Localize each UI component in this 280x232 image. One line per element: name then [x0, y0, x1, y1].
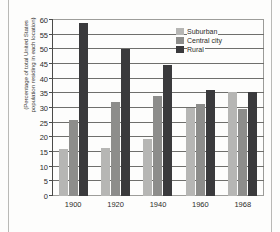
x-tick-label-1960: 1960: [192, 200, 209, 209]
y-tick-label: 15: [40, 148, 48, 157]
legend-label: Rural: [187, 46, 205, 53]
legend-label: Suburban: [187, 28, 218, 35]
chart-legend: SuburbanCentral cityRural: [176, 27, 223, 54]
bar-group-1940: 1940: [143, 20, 172, 196]
plot-area: 051015202530354045505560 190019201940196…: [52, 20, 264, 196]
y-axis-label: (Percentage of total United States popul…: [16, 0, 42, 140]
y-tick-label: 40: [40, 74, 48, 83]
bar-rural-1968: [248, 92, 257, 196]
legend-item-suburban: Suburban: [176, 27, 223, 36]
bar-group-1900: 1900: [59, 20, 88, 196]
bar-central-city-1920: [111, 102, 120, 196]
bar-central-city-1960: [196, 104, 205, 196]
bar-rural-1960: [206, 90, 215, 196]
bar-group-1968: 1968: [228, 20, 257, 196]
y-axis-label-line-2: population residing in each location): [29, 17, 36, 112]
y-tick-label: 25: [40, 118, 48, 127]
legend-item-central-city: Central city: [176, 36, 223, 45]
page-left-rule: [8, 0, 9, 232]
x-tick-label-1940: 1940: [150, 200, 167, 209]
bar-suburban-1920: [101, 148, 110, 196]
legend-swatch-rural: [176, 46, 184, 53]
page-right-rule: [271, 0, 272, 232]
bar-groups: 19001920194019601968: [52, 20, 264, 196]
bar-central-city-1940: [153, 96, 162, 196]
bar-rural-1900: [79, 23, 88, 196]
legend-swatch-central-city: [176, 37, 184, 44]
y-tick-label: 5: [44, 177, 48, 186]
legend-label: Central city: [187, 37, 223, 44]
bar-rural-1920: [121, 49, 130, 196]
y-tick-label: 55: [40, 30, 48, 39]
y-tick-label: 45: [40, 60, 48, 69]
bar-suburban-1940: [143, 139, 152, 196]
bar-central-city-1968: [238, 109, 247, 196]
y-tick-label: 35: [40, 89, 48, 98]
x-tick-label-1900: 1900: [65, 200, 82, 209]
bar-suburban-1968: [228, 92, 237, 196]
chart-figure: (Percentage of total United States popul…: [0, 0, 280, 232]
x-tick-label-1968: 1968: [234, 200, 251, 209]
y-tick-label: 50: [40, 45, 48, 54]
y-tick-label: 30: [40, 104, 48, 113]
y-tick-label: 10: [40, 162, 48, 171]
y-axis-label-line-1: (Percentage of total United States: [22, 20, 29, 109]
bar-rural-1940: [163, 65, 172, 196]
y-tick-label: 20: [40, 133, 48, 142]
y-tick-label: 0: [44, 192, 48, 201]
x-tick-label-1920: 1920: [107, 200, 124, 209]
y-tick-label: 60: [40, 16, 48, 25]
bar-central-city-1900: [69, 120, 78, 196]
bar-suburban-1960: [186, 108, 195, 196]
legend-item-rural: Rural: [176, 45, 223, 54]
bar-group-1920: 1920: [101, 20, 130, 196]
bar-suburban-1900: [59, 149, 68, 196]
legend-swatch-suburban: [176, 28, 184, 35]
